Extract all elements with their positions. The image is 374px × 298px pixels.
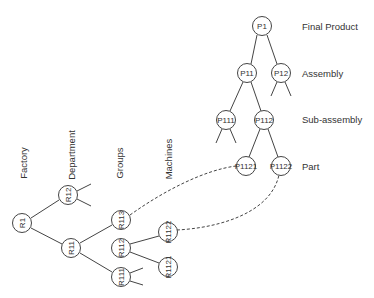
node-label: R1 (18, 217, 27, 228)
product-node-p11: P11 (238, 64, 257, 83)
resource-tree-nodes: R1R12R11R113R112R111R1122R1121 (13, 186, 178, 287)
edge-r112-r1122 (130, 236, 159, 244)
product-level-label: Assembly (302, 68, 343, 79)
product-level-label: Part (302, 161, 320, 172)
product-node-p12: P12 (272, 64, 291, 83)
stub-r12-top (77, 184, 91, 191)
node-label: P12 (274, 69, 289, 78)
product-tree-edges (216, 35, 291, 157)
resource-node-r11: R11 (62, 239, 81, 258)
resource-tree-edges (31, 184, 159, 285)
resource-level-label: Department (66, 130, 77, 180)
product-node-p112: P112 (255, 111, 274, 130)
edge-p112-p1122 (268, 129, 278, 157)
production-resource-diagram: P1P11P12P111P112P1121P1122 R1R12R11R113R… (0, 0, 374, 298)
resource-node-r113: R113 (112, 210, 131, 229)
mapping-r113-p1121 (130, 166, 236, 215)
node-label: R111 (117, 267, 126, 285)
product-node-p1121: P1121 (235, 157, 258, 176)
node-label: R1122 (164, 220, 173, 244)
resource-node-r1: R1 (13, 214, 32, 233)
stub-r12-bottom (77, 199, 91, 206)
product-node-p111: P111 (217, 111, 236, 130)
stub-p12-right (285, 82, 291, 96)
node-label: R113 (117, 210, 126, 229)
stub-r111-top (130, 268, 143, 273)
stub-p12-left (271, 82, 277, 96)
edge-r11-r113 (80, 225, 112, 243)
node-label: R1121 (164, 255, 173, 279)
node-label: P111 (217, 116, 235, 125)
product-tree-nodes: P1P11P12P111P112P1121P1122 (217, 17, 293, 176)
edge-r11-r111 (80, 253, 112, 272)
node-label: P1 (257, 22, 267, 31)
node-label: R112 (117, 238, 126, 257)
node-label: R12 (64, 187, 73, 202)
edge-r112-r1121 (130, 252, 159, 263)
resource-node-r12: R12 (59, 186, 78, 205)
node-label: P1121 (235, 162, 258, 171)
resource-node-r111: R111 (112, 267, 131, 286)
product-level-labels: Final ProductAssemblySub-assemblyPart (302, 21, 362, 172)
node-label: P112 (255, 116, 274, 125)
product-node-p1122: P1122 (270, 157, 293, 176)
edge-p112-p1121 (249, 129, 260, 157)
resource-level-label: Machines (163, 138, 174, 179)
stub-r111-bottom (130, 281, 143, 285)
product-level-label: Sub-assembly (302, 114, 362, 125)
resource-node-r112: R112 (112, 238, 131, 257)
edge-p1-p11 (251, 35, 257, 64)
product-node-p1: P1 (253, 17, 272, 36)
stub-p111-right (230, 129, 236, 143)
edge-p1-p12 (267, 35, 277, 64)
product-level-label: Final Product (302, 21, 358, 32)
edge-r1-r12 (31, 200, 59, 218)
node-label: R11 (67, 240, 76, 255)
stub-p111-left (216, 129, 222, 143)
resource-level-labels: FactoryDepartmentGroupsMachines (18, 130, 174, 180)
edge-p11-p111 (230, 82, 243, 111)
resource-node-r1122: R1122 (159, 220, 178, 244)
node-label: P11 (240, 69, 254, 78)
mapping-r1122-p1122 (177, 175, 279, 230)
node-label: P1122 (270, 162, 293, 171)
mapping-links (130, 166, 279, 230)
edge-r1-r11 (31, 228, 62, 244)
edge-p11-p112 (251, 82, 261, 111)
resource-node-r1121: R1121 (159, 255, 178, 279)
resource-level-label: Factory (18, 147, 29, 179)
resource-level-label: Groups (114, 147, 125, 178)
